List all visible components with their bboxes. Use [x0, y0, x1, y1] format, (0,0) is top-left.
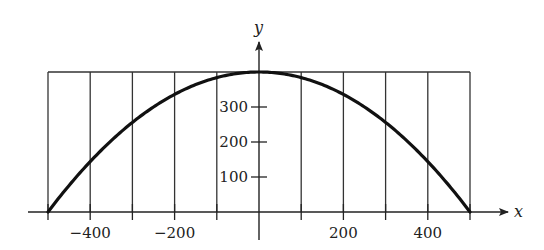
x-tick-label: 200: [329, 224, 358, 242]
y-tick-label: 300: [219, 98, 248, 116]
y-axis-label: y: [253, 18, 264, 37]
x-tick-label: −400: [70, 224, 111, 242]
parabola-chart: −400−200200400100200300 x y: [0, 0, 544, 250]
x-tick-label: 400: [413, 224, 442, 242]
y-tick-label: 200: [219, 133, 248, 151]
x-axis-label: x: [514, 202, 523, 221]
x-tick-label: −200: [154, 224, 195, 242]
y-tick-label: 100: [219, 168, 248, 186]
